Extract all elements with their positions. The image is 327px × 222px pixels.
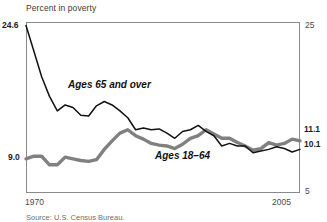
y-axis-left-bottom-tick: 9.0: [8, 152, 20, 162]
x-axis-end-tick: 2005: [272, 197, 291, 207]
series-annotation-ages-18-64: Ages 18–64: [155, 150, 210, 161]
poverty-line-chart: Percent in poverty 24.6 9.0 25 5 11.1 10…: [0, 0, 327, 222]
end-value-label-ages-18-64: 11.1: [304, 124, 320, 134]
series-plot: [26, 22, 300, 193]
source-note: Source: U.S. Census Bureau.: [26, 213, 124, 222]
y-axis-left-top-tick: 24.6: [2, 20, 19, 30]
series-annotation-ages-65-and-over: Ages 65 and over: [68, 79, 151, 90]
end-value-label-ages-65-and-over: 10.1: [304, 139, 321, 149]
x-axis-start-tick: 1970: [25, 197, 44, 207]
chart-axis-title: Percent in poverty: [26, 3, 96, 13]
y-axis-right-bottom-tick: 5: [305, 186, 310, 196]
y-axis-right-top-tick: 25: [305, 20, 314, 30]
